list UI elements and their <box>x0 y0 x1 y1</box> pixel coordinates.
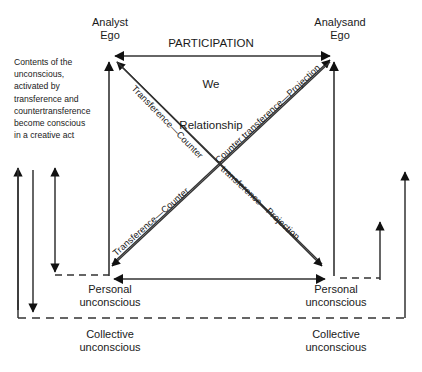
node-label-personal-unconscious-left: Personal unconscious <box>62 283 158 309</box>
side-note-text: Contents of the unconscious, activated b… <box>14 56 106 141</box>
edge-label-lower-left: Transference—Counter <box>111 186 191 258</box>
node-label-collective-unconscious-left: Collective unconscious <box>62 328 158 354</box>
transference-diagram: Transference—Counter Counter transferenc… <box>0 0 422 372</box>
node-label-analyst-ego: Analyst Ego <box>69 16 151 42</box>
title-line-participation: PARTICIPATION <box>151 37 271 51</box>
node-label-personal-unconscious-right: Personal unconscious <box>288 283 384 309</box>
title-line-we: We <box>151 78 271 92</box>
diagram-title: PARTICIPATION We Relationship <box>151 10 271 159</box>
node-label-collective-unconscious-right: Collective unconscious <box>288 328 384 354</box>
node-label-analysand-ego: Analysand Ego <box>296 16 384 42</box>
edge-label-lower-right: transference—Projection <box>219 164 302 242</box>
title-line-relationship: Relationship <box>151 119 271 133</box>
